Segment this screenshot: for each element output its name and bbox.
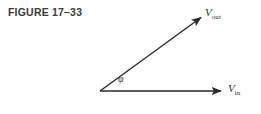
phase-angle-phi-symbol: φ: [118, 73, 124, 84]
vector-label-vout: Vout: [205, 6, 221, 21]
vector-label-vout-subscript: out: [212, 13, 221, 21]
vector-label-vin: Vin: [228, 82, 240, 97]
vector-label-vin-text: V: [228, 82, 235, 94]
vector-arrow-vout: [100, 18, 201, 92]
vector-label-vout-text: V: [205, 6, 212, 18]
vector-diagram-canvas: [0, 0, 261, 114]
vector-label-vin-subscript: in: [235, 89, 241, 97]
figure-container: FIGURE 17–33 φ Vout Vin: [0, 0, 261, 114]
